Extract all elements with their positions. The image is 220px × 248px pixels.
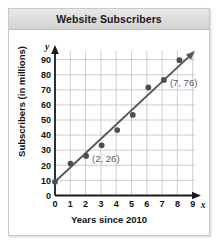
y-axis-arrowhead <box>51 45 59 54</box>
svg-text:6: 6 <box>144 199 149 209</box>
data-point <box>145 85 151 91</box>
svg-text:9: 9 <box>190 199 195 209</box>
svg-text:40: 40 <box>41 130 51 140</box>
plot-area: Subscribers (in millions) <box>9 30 209 236</box>
data-point <box>130 112 136 118</box>
data-point <box>83 153 89 159</box>
y-axis-variable: y <box>44 42 50 52</box>
data-point <box>177 57 183 63</box>
annotation-label: (2, 26) <box>92 153 119 164</box>
svg-text:70: 70 <box>41 85 51 95</box>
annotation-label: (7, 76) <box>170 77 197 88</box>
data-point <box>68 161 74 167</box>
x-tick-labels: 0 1 2 3 4 5 6 7 8 9 <box>52 199 195 209</box>
svg-text:80: 80 <box>41 70 51 80</box>
x-axis-label: Years since 2010 <box>9 214 209 225</box>
svg-text:7: 7 <box>160 199 165 209</box>
svg-text:4: 4 <box>114 199 119 209</box>
data-point <box>161 77 167 83</box>
chart-title: Website Subscribers <box>56 13 162 25</box>
gridlines-vertical <box>70 51 192 196</box>
svg-text:3: 3 <box>98 199 103 209</box>
svg-text:30: 30 <box>41 145 51 155</box>
svg-text:90: 90 <box>41 55 51 65</box>
svg-text:1: 1 <box>68 199 73 209</box>
data-point <box>114 127 120 133</box>
svg-text:20: 20 <box>41 161 51 171</box>
trend-line <box>55 51 195 182</box>
data-point <box>52 179 58 185</box>
svg-text:2: 2 <box>83 199 88 209</box>
svg-text:0: 0 <box>52 199 57 209</box>
y-tick-labels: 0 10 20 30 40 50 60 70 80 90 <box>41 55 51 201</box>
svg-text:60: 60 <box>41 100 51 110</box>
svg-text:10: 10 <box>41 176 51 186</box>
x-axis-variable: x <box>200 200 206 210</box>
data-point <box>99 142 105 148</box>
svg-text:5: 5 <box>129 199 134 209</box>
svg-text:50: 50 <box>41 115 51 125</box>
chart-figure: Website Subscribers Subscribers (in mill… <box>8 8 210 236</box>
chart-canvas: 0 10 20 30 40 50 60 70 80 90 0 1 2 3 4 5… <box>9 30 211 216</box>
svg-text:0: 0 <box>46 191 51 201</box>
chart-title-bar: Website Subscribers <box>9 9 209 30</box>
svg-text:8: 8 <box>175 199 180 209</box>
